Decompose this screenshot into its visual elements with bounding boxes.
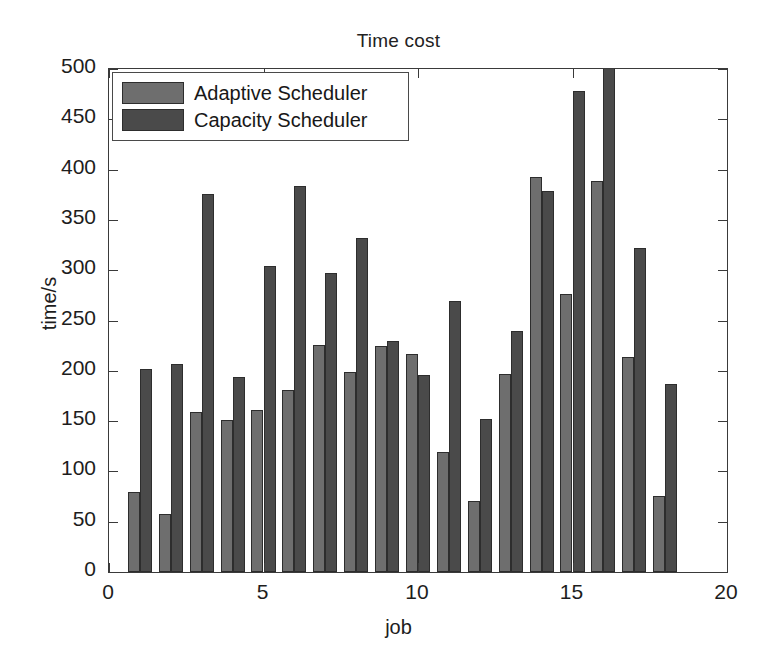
bar-adaptive-job-16	[591, 181, 603, 572]
y-tick-mark-right-450	[718, 119, 727, 120]
legend-label-capacity-scheduler: Capacity Scheduler	[194, 109, 367, 131]
y-tick-mark-right-400	[718, 170, 727, 171]
bar-adaptive-job-7	[313, 345, 325, 572]
y-tick-mark-right-500	[718, 69, 727, 70]
legend-swatch-adaptive-scheduler	[122, 82, 184, 104]
time-cost-chart-figure: Time cost time/s Adaptive Scheduler Capa…	[0, 0, 779, 658]
bar-capacity-job-18	[665, 384, 677, 572]
plot-frame	[108, 68, 728, 573]
x-tick-label-15: 15	[532, 580, 612, 604]
y-tick-label-50: 50	[0, 507, 96, 531]
bar-capacity-job-12	[480, 419, 492, 572]
bar-capacity-job-3	[202, 194, 214, 572]
bar-capacity-job-2	[171, 364, 183, 572]
y-tick-label-500: 500	[0, 54, 96, 78]
legend-swatch-capacity-scheduler	[122, 109, 184, 131]
chart-title: Time cost	[0, 30, 779, 52]
y-tick-label-350: 350	[0, 205, 96, 229]
y-tick-label-300: 300	[0, 255, 96, 279]
x-tick-mark-5	[264, 563, 265, 572]
y-tick-mark-500	[109, 69, 118, 70]
y-tick-label-100: 100	[0, 456, 96, 480]
bar-capacity-job-14	[542, 191, 554, 572]
x-tick-label-10: 10	[377, 580, 457, 604]
y-tick-mark-150	[109, 421, 118, 422]
y-tick-mark-right-300	[718, 270, 727, 271]
bar-capacity-job-11	[449, 301, 461, 572]
x-tick-mark-top-0	[109, 69, 110, 78]
bar-adaptive-job-18	[653, 496, 665, 572]
bar-capacity-job-9	[387, 341, 399, 572]
y-tick-mark-right-350	[718, 220, 727, 221]
bar-capacity-job-13	[511, 331, 523, 572]
bar-adaptive-job-9	[375, 346, 387, 572]
bar-adaptive-job-17	[622, 357, 634, 572]
bar-capacity-job-7	[325, 273, 337, 572]
bar-adaptive-job-12	[468, 501, 480, 572]
y-tick-mark-350	[109, 220, 118, 221]
x-tick-label-5: 5	[223, 580, 303, 604]
bar-adaptive-job-2	[159, 514, 171, 572]
legend-label-adaptive-scheduler: Adaptive Scheduler	[194, 82, 367, 104]
chart-legend: Adaptive Scheduler Capacity Scheduler	[112, 72, 409, 141]
x-tick-label-20: 20	[686, 580, 766, 604]
y-tick-mark-right-50	[718, 522, 727, 523]
bar-capacity-job-1	[140, 369, 152, 572]
y-tick-mark-right-250	[718, 321, 727, 322]
x-axis-label: job	[0, 616, 779, 639]
bar-adaptive-job-5	[251, 410, 263, 572]
bar-adaptive-job-3	[190, 412, 202, 572]
x-tick-mark-0	[109, 563, 110, 572]
bar-adaptive-job-14	[530, 177, 542, 572]
bar-capacity-job-8	[356, 238, 368, 572]
y-tick-mark-200	[109, 371, 118, 372]
y-tick-mark-100	[109, 471, 118, 472]
y-tick-mark-right-100	[718, 471, 727, 472]
x-tick-mark-top-15	[573, 69, 574, 78]
legend-item-adaptive-scheduler: Adaptive Scheduler	[122, 79, 408, 106]
bar-adaptive-job-6	[282, 390, 294, 572]
y-tick-mark-right-150	[718, 421, 727, 422]
bar-capacity-job-5	[264, 266, 276, 572]
bar-adaptive-job-10	[406, 354, 418, 572]
y-tick-mark-300	[109, 270, 118, 271]
y-tick-mark-0	[109, 572, 118, 573]
bar-adaptive-job-8	[344, 372, 356, 572]
y-tick-mark-250	[109, 321, 118, 322]
x-tick-mark-15	[573, 563, 574, 572]
bar-adaptive-job-1	[128, 492, 140, 572]
y-tick-label-150: 150	[0, 406, 96, 430]
bar-capacity-job-4	[233, 377, 245, 572]
x-tick-label-0: 0	[68, 580, 148, 604]
x-tick-mark-top-20	[727, 69, 728, 78]
bar-capacity-job-10	[418, 375, 430, 572]
x-tick-mark-10	[418, 563, 419, 572]
y-tick-label-450: 450	[0, 104, 96, 128]
bar-capacity-job-16	[603, 69, 615, 572]
bar-adaptive-job-11	[437, 452, 449, 572]
bar-adaptive-job-4	[221, 420, 233, 572]
y-tick-label-0: 0	[0, 557, 96, 581]
x-tick-mark-top-10	[418, 69, 419, 78]
y-tick-mark-50	[109, 522, 118, 523]
y-tick-label-400: 400	[0, 155, 96, 179]
plot-area	[109, 69, 727, 572]
bar-adaptive-job-13	[499, 374, 511, 572]
y-tick-label-200: 200	[0, 356, 96, 380]
bar-capacity-job-6	[294, 186, 306, 572]
bar-capacity-job-17	[634, 248, 646, 572]
legend-item-capacity-scheduler: Capacity Scheduler	[122, 106, 408, 133]
y-tick-label-250: 250	[0, 306, 96, 330]
x-tick-mark-20	[727, 563, 728, 572]
x-axis-label-text: job	[385, 616, 412, 639]
y-tick-mark-right-200	[718, 371, 727, 372]
y-tick-mark-400	[109, 170, 118, 171]
chart-title-text: Time cost	[357, 30, 440, 52]
bar-capacity-job-15	[573, 91, 585, 572]
y-tick-mark-right-0	[718, 572, 727, 573]
bar-adaptive-job-15	[560, 294, 572, 572]
